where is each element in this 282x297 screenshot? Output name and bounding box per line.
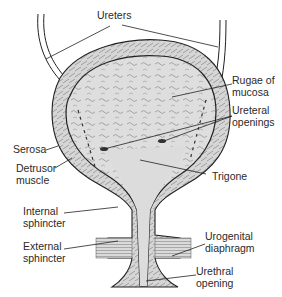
label-rugae-line1: Rugae of [232, 74, 275, 86]
label-rugae-line2: mucosa [232, 86, 275, 98]
label-trigone-text: Trigone [212, 170, 247, 182]
label-internal-sphincter-line1: Internal [23, 205, 66, 217]
label-urethral-opening-line2: opening [196, 277, 233, 289]
label-external-sphincter: External sphincter [23, 240, 66, 264]
label-rugae: Rugae of mucosa [232, 74, 275, 98]
label-urethral-opening-line1: Urethral [196, 265, 233, 277]
label-external-sphincter-line2: sphincter [23, 252, 66, 264]
urogenital-diaphragm-left [96, 238, 132, 258]
label-internal-sphincter: Internal sphincter [23, 205, 66, 229]
label-ureteral-openings-line2: openings [232, 116, 275, 128]
label-urogenital-diaphragm: Urogenital diaphragm [205, 230, 255, 254]
label-detrusor-line2: muscle [16, 174, 56, 186]
label-internal-sphincter-line2: sphincter [23, 217, 66, 229]
bladder-diagram: Ureters Rugae of mucosa Ureteral opening… [0, 0, 282, 297]
label-external-sphincter-line1: External [23, 240, 66, 252]
label-serosa-text: Serosa [13, 143, 46, 155]
label-ureteral-openings-line1: Ureteral [232, 104, 275, 116]
label-ureters: Ureters [97, 9, 131, 21]
label-ureteral-openings: Ureteral openings [232, 104, 275, 128]
label-urogenital-diaphragm-line2: diaphragm [205, 242, 255, 254]
label-urogenital-diaphragm-line1: Urogenital [205, 230, 255, 242]
ureter-left [38, 14, 64, 80]
urogenital-diaphragm-right [155, 238, 191, 258]
label-urethral-opening: Urethral opening [196, 265, 233, 289]
label-ureters-text: Ureters [97, 9, 131, 21]
label-detrusor-line1: Detrusor [16, 162, 56, 174]
label-detrusor: Detrusor muscle [16, 162, 56, 186]
label-serosa: Serosa [13, 143, 46, 155]
label-trigone: Trigone [212, 170, 247, 182]
